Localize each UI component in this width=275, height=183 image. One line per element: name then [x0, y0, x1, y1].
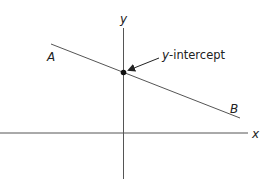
y-intercept-label: y-intercept	[161, 48, 226, 62]
point-a-label: A	[46, 50, 55, 64]
point-b-label: B	[230, 102, 238, 116]
y-axis-label: y	[119, 12, 128, 26]
y-intercept-label-text: -intercept	[169, 48, 225, 62]
x-axis-label: x	[251, 127, 260, 141]
y-intercept-point	[121, 70, 127, 76]
annotation-arrow	[129, 58, 159, 70]
linear-graph-diagram: y x A B y-intercept	[0, 0, 275, 183]
